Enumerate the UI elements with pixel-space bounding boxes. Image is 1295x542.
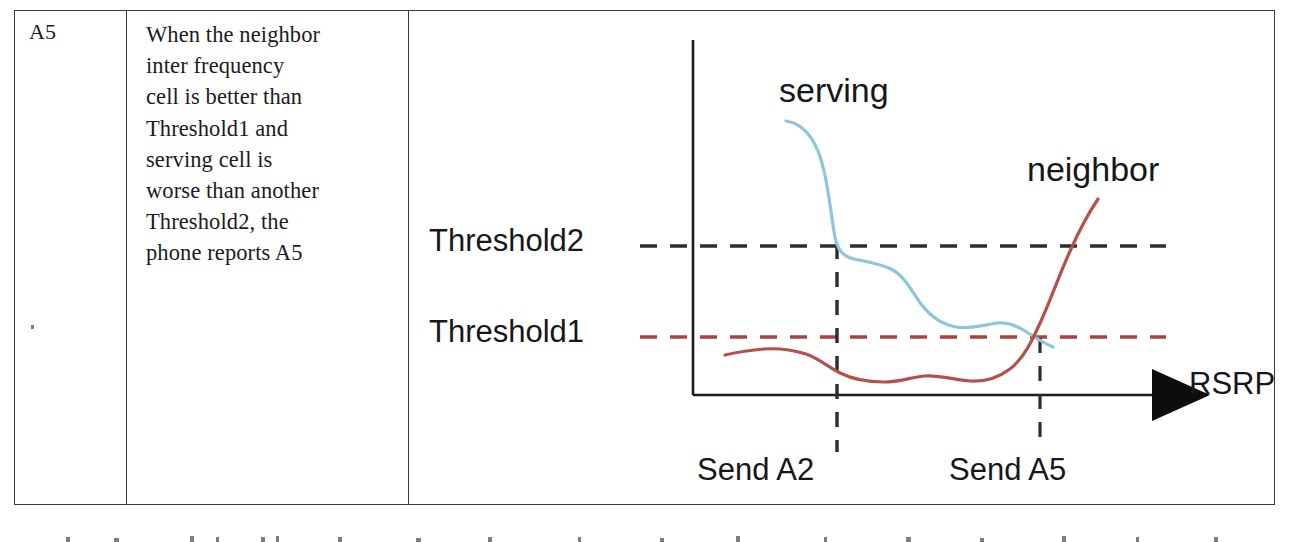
neighbor-curve-label: neighbor bbox=[1027, 152, 1159, 186]
clipped-text-below-table bbox=[18, 529, 1263, 542]
send-a2-label: Send A2 bbox=[697, 454, 814, 485]
event-table: A5 When the neighbor inter frequency cel… bbox=[14, 10, 1275, 505]
table-cell-description: When the neighbor inter frequency cell i… bbox=[126, 11, 408, 504]
serving-curve-label: serving bbox=[779, 73, 889, 107]
event-id-label: A5 bbox=[29, 20, 126, 44]
x-axis-label: RSRP bbox=[1189, 368, 1275, 399]
event-description-text: When the neighbor inter frequency cell i… bbox=[146, 19, 396, 269]
table-cell-figure: Threshold2 Threshold1 serving neighbor R… bbox=[408, 11, 1274, 504]
serving-curve bbox=[786, 121, 1053, 347]
threshold1-label: Threshold1 bbox=[429, 316, 584, 347]
scanned-page: A5 When the neighbor inter frequency cel… bbox=[0, 0, 1295, 542]
send-a5-label: Send A5 bbox=[949, 454, 1066, 485]
table-cell-event-id: A5 bbox=[15, 11, 126, 504]
threshold2-label: Threshold2 bbox=[429, 225, 584, 256]
a5-event-diagram: Threshold2 Threshold1 serving neighbor R… bbox=[408, 11, 1276, 504]
scan-speck bbox=[31, 325, 34, 329]
